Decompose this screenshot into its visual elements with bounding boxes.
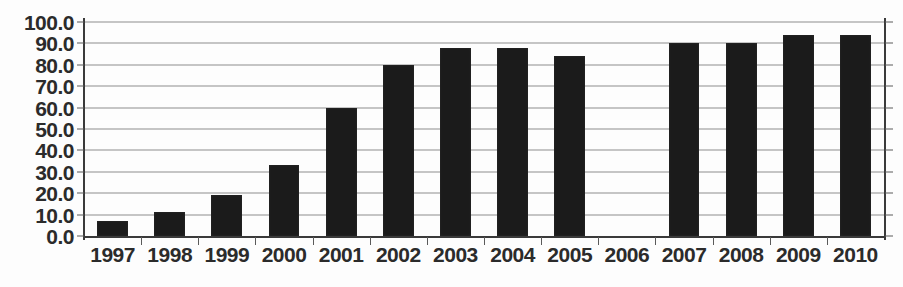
bar bbox=[726, 43, 757, 236]
y-tick-mark bbox=[77, 43, 84, 44]
x-tick-label: 2002 bbox=[370, 244, 427, 266]
bar bbox=[383, 65, 414, 236]
y-tick-mark bbox=[77, 129, 84, 130]
y-tick-mark-right bbox=[885, 236, 893, 237]
x-tick-label: 2007 bbox=[655, 244, 712, 266]
y-tick-label: 80.0 bbox=[0, 54, 74, 75]
x-tick-label: 2004 bbox=[484, 244, 541, 266]
x-tick-label: 2000 bbox=[255, 244, 312, 266]
y-tick-mark bbox=[77, 86, 84, 87]
y-tick-label: 60.0 bbox=[0, 97, 74, 118]
y-tick-mark-right bbox=[885, 43, 893, 44]
bar bbox=[840, 35, 871, 236]
x-tick-label: 2008 bbox=[713, 244, 770, 266]
bar bbox=[211, 195, 242, 236]
bar bbox=[669, 43, 700, 236]
bar bbox=[554, 56, 585, 236]
x-tick-label: 2006 bbox=[598, 244, 655, 266]
bar bbox=[154, 212, 185, 236]
y-tick-mark bbox=[77, 171, 84, 172]
y-tick-mark-right bbox=[885, 86, 893, 87]
bars-layer bbox=[84, 22, 884, 236]
x-tick-label: 1997 bbox=[84, 244, 141, 266]
bar bbox=[269, 165, 300, 236]
y-axis: 0.010.020.030.040.050.060.070.080.090.01… bbox=[0, 0, 78, 287]
bar-chart: 0.010.020.030.040.050.060.070.080.090.01… bbox=[0, 0, 903, 287]
y-tick-label: 10.0 bbox=[0, 204, 74, 225]
x-axis: 1997199819992000200120022003200420052006… bbox=[84, 244, 884, 284]
y-tick-mark bbox=[77, 150, 84, 151]
bar bbox=[326, 108, 357, 236]
y-tick-label: 0.0 bbox=[0, 226, 74, 247]
y-tick-mark bbox=[77, 22, 84, 23]
bar bbox=[97, 221, 128, 236]
y-tick-mark-right bbox=[885, 22, 893, 23]
bar bbox=[440, 48, 471, 236]
x-tick-label: 1999 bbox=[198, 244, 255, 266]
y-tick-label: 100.0 bbox=[0, 12, 74, 33]
plot-area bbox=[84, 22, 884, 236]
y-tick-label: 50.0 bbox=[0, 119, 74, 140]
x-tick-label: 2003 bbox=[427, 244, 484, 266]
y-tick-mark bbox=[77, 236, 84, 237]
y-tick-mark-right bbox=[885, 64, 893, 65]
bar bbox=[497, 48, 528, 236]
x-tick-label: 1998 bbox=[141, 244, 198, 266]
y-tick-label: 40.0 bbox=[0, 140, 74, 161]
y-tick-mark bbox=[77, 193, 84, 194]
y-tick-mark bbox=[77, 107, 84, 108]
y-tick-label: 70.0 bbox=[0, 76, 74, 97]
y-tick-mark bbox=[77, 64, 84, 65]
x-tick-label: 2009 bbox=[770, 244, 827, 266]
y-tick-label: 20.0 bbox=[0, 183, 74, 204]
bar bbox=[783, 35, 814, 236]
y-tick-mark bbox=[77, 214, 84, 215]
y-tick-mark-right bbox=[885, 107, 893, 108]
x-tick-label: 2001 bbox=[313, 244, 370, 266]
y-tick-label: 30.0 bbox=[0, 161, 74, 182]
y-tick-label: 90.0 bbox=[0, 33, 74, 54]
y-tick-mark-right bbox=[885, 214, 893, 215]
y-tick-mark-right bbox=[885, 129, 893, 130]
y-tick-mark-right bbox=[885, 171, 893, 172]
y-tick-mark-right bbox=[885, 150, 893, 151]
y-tick-mark-right bbox=[885, 193, 893, 194]
x-tick-label: 2005 bbox=[541, 244, 598, 266]
x-tick-label: 2010 bbox=[827, 244, 884, 266]
